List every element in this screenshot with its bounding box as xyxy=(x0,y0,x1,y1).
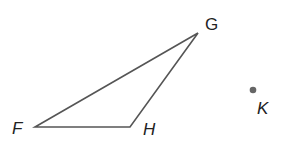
label-f: F xyxy=(12,119,24,138)
diagram-svg: G F H K xyxy=(0,0,285,151)
point-k xyxy=(250,87,257,94)
diagram-canvas: G F H K xyxy=(0,0,285,151)
label-h: H xyxy=(143,120,156,139)
triangle-fgh xyxy=(35,33,198,127)
label-g: G xyxy=(205,15,218,34)
label-k: K xyxy=(257,99,269,118)
